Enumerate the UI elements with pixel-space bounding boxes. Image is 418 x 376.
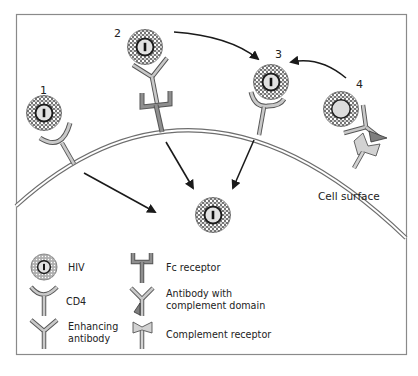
legend-label-hiv: HIV — [68, 262, 85, 273]
hiv-virus-icon — [128, 30, 163, 65]
legend-label-antibody-complement-1: Antibody with — [166, 288, 232, 299]
legend-label-enhancing-1: Enhancing — [68, 321, 118, 332]
legend-label-complement-receptor: Complement receptor — [166, 329, 271, 340]
legend-label-cd4: CD4 — [66, 296, 86, 307]
internalized-hiv-icon — [196, 198, 231, 233]
step-label-2: 2 — [114, 27, 121, 40]
step-label-4: 4 — [356, 78, 363, 91]
cell-surface-label: Cell surface — [318, 190, 380, 202]
legend-label-antibody-complement-2: complement domain — [166, 300, 265, 311]
legend-label-fc-receptor: Fc receptor — [166, 262, 220, 273]
hiv-virus-icon — [324, 92, 359, 127]
hiv-virus-icon — [27, 96, 62, 131]
hiv-entry-diagram: 1 2 3 — [0, 0, 418, 376]
step-label-3: 3 — [275, 48, 282, 61]
hiv-icon — [31, 254, 57, 280]
hiv-virus-icon — [254, 65, 289, 100]
legend-label-enhancing-2: antibody — [68, 333, 110, 344]
step-label-1: 1 — [40, 84, 47, 97]
